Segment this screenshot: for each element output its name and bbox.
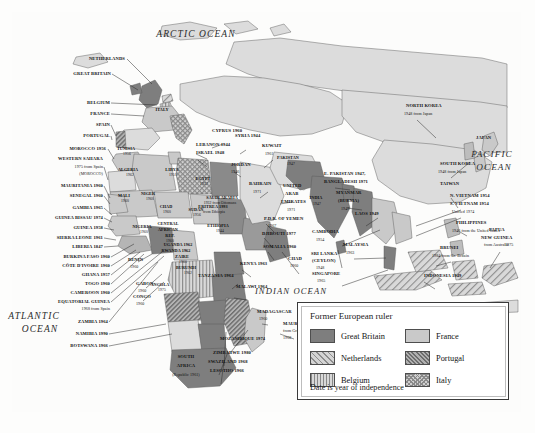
country-label: WESTERN SAHARA: [0, 157, 103, 162]
country-label: MOZAMBIQUE 1974: [220, 337, 265, 342]
legend-swatch-france: [405, 329, 430, 343]
legend-label: Great Britain: [341, 332, 385, 341]
country-label: EQUATORIAL GUINEA: [0, 300, 110, 305]
legend-swatch-italy: [405, 373, 430, 387]
country-label: MADAGASCAR: [257, 310, 292, 315]
country-label: MALAWI 1964: [236, 285, 267, 290]
inmap-country-label: LIBYA: [132, 168, 212, 172]
country-label: BELGIUM: [0, 101, 110, 106]
country-label: CYPRUS 1960: [212, 129, 242, 134]
legend-entry: France: [405, 329, 500, 343]
country-label: BRUNEI: [440, 246, 458, 251]
legend-entry: Italy: [405, 373, 500, 387]
country-label: Unified 1974: [452, 210, 474, 214]
country-label: JAPAN: [476, 136, 491, 141]
country-label: (MOROCCO): [0, 172, 103, 176]
inmap-country-label: from Ethiopia: [174, 211, 254, 215]
country-label: 1975: [505, 243, 513, 247]
country-label: JORDAN: [231, 163, 251, 168]
country-label: N. VIETNAM 1954: [450, 194, 490, 199]
country-label: SOUTH: [126, 355, 246, 360]
country-label: E. PAKISTAN 1947,: [324, 172, 366, 177]
inmap-country-label: 1962: [148, 272, 228, 276]
inmap-country-label: RWANDA 1962: [136, 249, 216, 253]
inmap-country-label: 1947: [251, 163, 331, 167]
inmap-country-label: INDIA: [276, 196, 356, 200]
country-label: 1948 from Japan: [438, 170, 466, 174]
country-label: NAMIBIA 1990: [0, 332, 108, 337]
country-label: 1946: [231, 170, 239, 174]
country-label: MYANMAR: [336, 191, 362, 196]
country-label: GREAT BRITAIN: [0, 72, 111, 77]
country-label: 1965: [317, 279, 325, 283]
inmap-country-label: NIGER: [108, 192, 188, 196]
inmap-country-label: BURUNDI: [146, 266, 226, 270]
ocean-label: PACIFIC: [432, 150, 535, 159]
country-label: 1960: [136, 302, 144, 306]
inmap-country-label: UGANDA 1962: [138, 243, 218, 247]
legend-row: Great BritainFrance: [310, 326, 500, 346]
country-label: CHAD: [288, 257, 302, 262]
inmap-country-label: EGYPT: [163, 177, 243, 181]
legend-label: Portugal: [436, 354, 464, 363]
country-label: BURKINA FASO 1960: [0, 255, 110, 260]
country-label: NORTH KOREA: [406, 104, 442, 109]
legend-label: Italy: [436, 376, 451, 385]
inmap-country-label: ZAIRE: [142, 255, 222, 259]
country-label: (Republic 1961): [126, 373, 246, 377]
country-label: UNITED: [283, 184, 301, 189]
country-label: (CEYLON): [312, 259, 336, 264]
decolonization-map: ARCTIC OCEANATLANTICOCEANINDIAN OCEANPAC…: [0, 0, 535, 433]
country-label: NETHERLANDS: [0, 57, 125, 62]
country-label: LEBANON 1944: [196, 143, 230, 148]
country-label: S. VIETNAM 1954: [450, 202, 489, 207]
country-label: SRI LANKA: [311, 252, 337, 257]
country-label: AFRICA: [126, 364, 246, 369]
country-label: 1960: [259, 317, 267, 321]
country-label: GHANA 1957: [0, 273, 110, 278]
country-label: 1984 from Gr. Britain: [432, 254, 469, 258]
inmap-country-label: 1947: [277, 203, 357, 207]
country-label: GUINEA 1958: [0, 226, 103, 231]
legend-swatch-portugal: [405, 351, 430, 365]
country-label: P.D.R. OF YEMEN: [264, 217, 303, 222]
legend-title: Former European ruler: [310, 311, 392, 321]
country-label: 1954: [316, 238, 324, 242]
country-label: TAIWAN: [440, 182, 459, 187]
inmap-country-label: PAKISTAN: [248, 156, 328, 160]
country-label: CÔTE D'IVOIRE 1960: [0, 264, 110, 269]
country-label: DJIBOUTI 1977: [262, 232, 296, 237]
country-label: LIBERIA 1847: [0, 245, 103, 250]
country-label: 1968 from Spain: [0, 307, 110, 311]
inmap-country-label: TUNISIA: [86, 147, 166, 151]
legend-swatch-netherlands: [310, 351, 335, 365]
country-label: PAPUA: [489, 228, 505, 233]
legend-footnote: Date is year of independence: [310, 383, 404, 392]
inmap-country-label: 1956: [87, 153, 167, 157]
country-label: BENIN: [128, 258, 143, 263]
country-label: PORTUGAL: [0, 134, 110, 139]
country-label: MALAYSIA: [343, 243, 368, 248]
country-label: 1960: [130, 265, 138, 269]
country-label: GAMBIA 1965: [0, 206, 103, 211]
legend-label: Netherlands: [341, 354, 381, 363]
country-label: BANGLADESH 1971: [324, 180, 368, 185]
inmap-country-label: ITALY: [122, 108, 202, 112]
country-label: KUWAIT: [262, 144, 282, 149]
country-label: 1971: [253, 190, 261, 194]
country-label: SPAIN: [0, 123, 110, 128]
map-legend: Former European ruler Great BritainFranc…: [297, 302, 509, 400]
inmap-country-label: REP.: [130, 234, 210, 238]
inmap-country-label: CENTRAL: [128, 222, 208, 226]
country-label: ISRAEL 1948: [196, 151, 224, 156]
inmap-country-label: ERITREA 1993: [173, 205, 253, 209]
inmap-country-label: 1922: [164, 183, 244, 187]
inmap-country-label: SAUDI ARABIA: [182, 196, 262, 200]
legend-entry: Great Britain: [310, 329, 405, 343]
country-label: LAOS 1949: [355, 212, 379, 217]
country-label: SYRIA 1944: [235, 134, 260, 139]
country-label: NEW GUINEA: [481, 236, 512, 241]
legend-label: France: [436, 332, 459, 341]
country-label: ZAMBIA 1964: [0, 320, 108, 325]
country-label: 1968: [283, 336, 291, 340]
